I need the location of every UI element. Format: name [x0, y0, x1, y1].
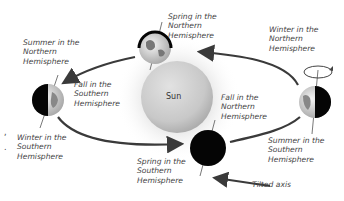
svg-text:.: . — [4, 143, 7, 152]
label-spring-southern: Spring in the Southern Hemisphere — [137, 157, 186, 185]
label-summer-northern: Summer in the Northern Hemisphere — [23, 38, 79, 66]
label-fall-northern: Fall in the Northern Hemisphere — [221, 93, 267, 121]
label-winter-southern: Winter in the Southern Hemisphere — [17, 133, 66, 161]
sun-label: Sun — [166, 92, 181, 101]
label-summer-southern: Summer in the Southern Hemisphere — [268, 136, 324, 164]
svg-text:,: , — [4, 128, 7, 137]
label-tilted-axis: Tilted axis — [252, 180, 291, 189]
label-fall-southern: Fall in the Southern Hemisphere — [74, 80, 120, 108]
label-spring-northern: Spring in the Northern Hemisphere — [168, 12, 217, 40]
earth-right — [299, 66, 333, 134]
seasons-diagram: , . Sun Spring in the Northern Hemispher… — [0, 0, 344, 201]
label-winter-northern: Winter in the Northern Hemisphere — [269, 25, 318, 53]
